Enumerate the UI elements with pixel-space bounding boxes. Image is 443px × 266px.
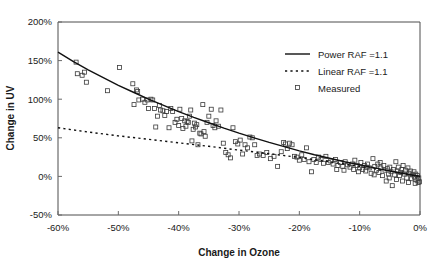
x-axis-tick-label: -20% [288, 222, 311, 233]
legend-label-power: Power RAF =1.1 [318, 49, 388, 60]
y-axis-tick-label: 50% [33, 132, 53, 143]
x-axis-title: Change in Ozone [198, 247, 280, 258]
x-axis-tick-label: -30% [228, 222, 251, 233]
y-axis-tick-label: 0% [38, 171, 52, 182]
y-axis-tick-label: 150% [28, 55, 53, 66]
x-axis-tick-label: -50% [107, 222, 130, 233]
x-axis-tick-label: -60% [47, 222, 70, 233]
x-axis-tick-label: -40% [168, 222, 191, 233]
change-in-uv-vs-change-in-ozone-chart: -50%0%50%100%150%200% -60%-50%-40%-30%-2… [0, 0, 443, 266]
y-axis-tick-label: 200% [28, 16, 53, 27]
y-axis-title: Change in UV [5, 85, 16, 150]
y-axis-tick-label: -50% [30, 209, 53, 220]
chart-container: -50%0%50%100%150%200% -60%-50%-40%-30%-2… [0, 0, 443, 266]
x-axis-tick-label: -10% [349, 222, 372, 233]
legend-label-measured: Measured [318, 83, 360, 94]
y-axis-tick-label: 100% [28, 94, 53, 105]
x-axis-tick-label: 0% [413, 222, 427, 233]
legend-label-linear: Linear RAF =1.1 [318, 66, 387, 77]
